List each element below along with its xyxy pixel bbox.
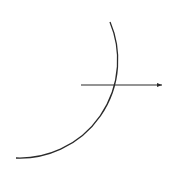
circular-arc — [16, 22, 118, 158]
diagram-canvas — [0, 0, 171, 181]
